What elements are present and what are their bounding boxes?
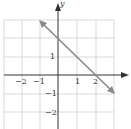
coordinate-plane <box>0 0 131 129</box>
y-tick-1: 1 <box>50 53 55 61</box>
y-axis-label: y <box>60 0 65 8</box>
x-tick-2: 2 <box>93 78 98 86</box>
x-tick-minus-1: −1 <box>33 78 45 86</box>
x-axis-arrow-icon <box>121 72 129 78</box>
y-tick-minus-2: −2 <box>45 109 57 117</box>
y-tick-minus-1: −1 <box>45 90 57 98</box>
x-tick-1: 1 <box>75 78 80 86</box>
x-tick-minus-2: −2 <box>15 78 27 86</box>
